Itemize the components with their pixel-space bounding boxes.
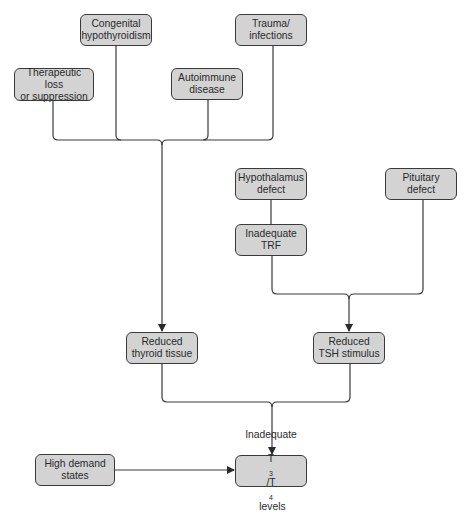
- label-line-1: Inadequate: [245, 429, 297, 441]
- node-inadequate-trf: Inadequate TRF: [235, 224, 307, 256]
- node-high-demand-states: High demand states: [35, 454, 115, 486]
- node-therapeutic-loss: Therapeutic loss or suppression: [14, 68, 94, 101]
- node-congenital-hypothyroidism: Congenital hypothyroidism: [80, 14, 152, 46]
- connector-therapeutic: [53, 101, 162, 145]
- node-label: Pituitary defect: [402, 172, 439, 196]
- t-letter: T: [245, 453, 297, 465]
- connector-reduced-thyroid: [162, 364, 272, 407]
- node-label: Inadequate TRF: [245, 228, 297, 252]
- node-label: Reduced thyroid tissue: [132, 336, 193, 360]
- node-inadequate-t3-t4-levels: Inadequate T3/T4 levels: [235, 455, 307, 487]
- node-label: Inadequate T3/T4 levels: [245, 417, 297, 514]
- node-hypothalamus-defect: Hypothalamus defect: [235, 168, 307, 200]
- node-label: Therapeutic loss or suppression: [17, 67, 91, 103]
- node-label: High demand states: [44, 458, 105, 482]
- slash-t: /T: [245, 477, 297, 489]
- node-label: Hypothalamus defect: [238, 172, 304, 196]
- node-autoimmune-disease: Autoimmune disease: [171, 68, 243, 100]
- node-label: Autoimmune disease: [178, 72, 236, 96]
- subscript-3: 3: [269, 470, 273, 477]
- label-line-2: T3/T4 levels: [245, 453, 297, 513]
- connector-autoimmune: [203, 100, 208, 140]
- node-label: Reduced TSH stimulus: [318, 336, 379, 360]
- connector-trf: [272, 256, 349, 299]
- connector-reduced-tsh: [272, 364, 350, 407]
- node-reduced-tsh-stimulus: Reduced TSH stimulus: [313, 332, 385, 364]
- connector-pituitary: [349, 200, 423, 299]
- node-reduced-thyroid-tissue: Reduced thyroid tissue: [126, 332, 198, 364]
- node-label: Trauma/ infections: [249, 18, 293, 42]
- connector-congenital: [116, 46, 121, 140]
- levels-text: levels: [245, 501, 297, 513]
- subscript-4: 4: [269, 494, 273, 501]
- node-trauma-infections: Trauma/ infections: [235, 14, 307, 46]
- node-pituitary-defect: Pituitary defect: [385, 168, 457, 200]
- node-label: Congenital hypothyroidism: [81, 18, 150, 42]
